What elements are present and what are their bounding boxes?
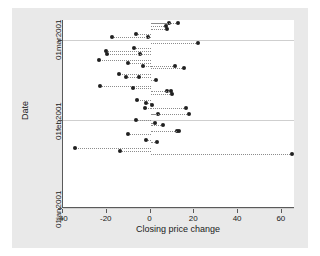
data-point — [187, 112, 191, 116]
leader-line — [106, 51, 151, 52]
data-point — [141, 64, 145, 68]
x-axis-tick — [193, 209, 194, 213]
plot-region — [62, 20, 294, 208]
leader-line — [112, 37, 150, 38]
leader-line — [151, 131, 179, 132]
data-point — [134, 118, 138, 122]
data-point — [73, 146, 77, 150]
data-point — [118, 149, 122, 153]
data-point — [177, 129, 181, 133]
data-point — [131, 86, 135, 90]
x-axis-tick — [150, 209, 151, 213]
data-point — [126, 61, 130, 65]
x-axis-tick — [281, 209, 282, 213]
leader-line — [151, 154, 292, 155]
y-axis-tick-label: 01mar2001 — [54, 19, 63, 59]
data-point — [110, 35, 114, 39]
data-point — [135, 98, 139, 102]
data-point — [124, 75, 128, 79]
y-gridline — [63, 120, 294, 121]
leader-line — [151, 114, 189, 115]
data-point — [290, 152, 294, 156]
leader-line — [133, 88, 151, 89]
figure-region: Closing price change Date 01jan200101feb… — [12, 8, 308, 248]
leader-line — [75, 148, 151, 149]
data-point — [176, 21, 180, 25]
data-point — [182, 66, 186, 70]
y-axis-title: Date — [20, 101, 30, 120]
x-axis-tick-label: -40 — [56, 214, 68, 223]
x-axis-tick — [106, 209, 107, 213]
leader-line — [134, 48, 150, 49]
data-point — [97, 58, 101, 62]
data-point — [184, 106, 188, 110]
data-point — [144, 101, 148, 105]
leader-line — [151, 91, 172, 92]
x-axis-tick — [62, 209, 63, 213]
leader-line — [151, 108, 186, 109]
data-point — [98, 84, 102, 88]
data-point — [143, 106, 147, 110]
leader-line — [107, 54, 151, 55]
data-point — [161, 123, 165, 127]
leader-line — [151, 43, 198, 44]
data-point — [132, 46, 136, 50]
data-point — [134, 32, 138, 36]
data-point — [117, 72, 121, 76]
x-axis-tick-label: 60 — [276, 214, 285, 223]
leader-line — [151, 94, 173, 95]
data-point — [153, 121, 157, 125]
leader-line — [151, 68, 185, 69]
leader-line — [128, 134, 151, 135]
x-axis-tick-label: 40 — [233, 214, 242, 223]
data-point — [165, 27, 169, 31]
data-point — [105, 52, 109, 56]
leader-line — [99, 60, 150, 61]
data-point — [144, 138, 148, 142]
leader-line — [128, 63, 151, 64]
y-axis-tick-label: 01feb2001 — [54, 102, 63, 140]
data-point — [170, 92, 174, 96]
x-axis-tick-label: -20 — [100, 214, 112, 223]
data-point — [154, 78, 158, 82]
leader-line — [136, 120, 150, 121]
leader-line — [120, 151, 151, 152]
y-gridline — [63, 208, 294, 209]
data-point — [196, 41, 200, 45]
data-point — [126, 132, 130, 136]
x-axis-tick-label: 20 — [189, 214, 198, 223]
x-axis-tick-label: 0 — [147, 214, 151, 223]
data-point — [137, 75, 141, 79]
x-axis-title: Closing price change — [62, 224, 294, 234]
y-gridline — [63, 40, 294, 41]
leader-line — [151, 66, 175, 67]
data-point — [155, 140, 159, 144]
x-axis-tick — [237, 209, 238, 213]
leader-line — [100, 86, 150, 87]
data-point — [173, 64, 177, 68]
data-point — [150, 103, 154, 107]
